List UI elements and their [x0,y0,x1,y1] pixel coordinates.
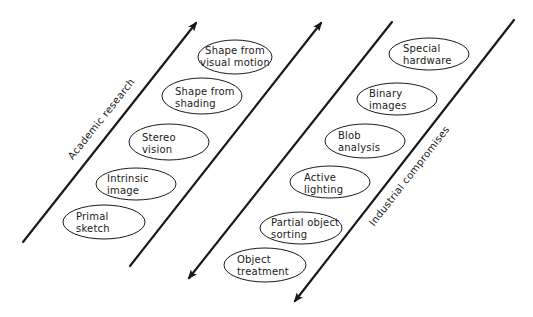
node-stereo-vision: Stereo vision [129,124,209,160]
svg-text:lighting: lighting [304,184,343,195]
svg-text:Shape from: Shape from [205,45,265,56]
svg-text:sorting: sorting [271,229,307,240]
svg-text:Partial object: Partial object [271,217,339,228]
svg-text:Intrinsic: Intrinsic [107,173,149,184]
node-intrinsic-image: Intrinsic image [96,168,176,200]
diagram-svg: Academic research Industrial compromises… [0,0,533,317]
node-shape-from-visual-motion: Shape from visual motion [198,40,272,74]
svg-text:Active: Active [304,172,336,183]
svg-text:shading: shading [175,98,216,109]
node-partial-object-sorting: Partial object sorting [260,212,342,244]
svg-text:vision: vision [142,144,172,155]
node-shape-from-shading: Shape from shading [162,78,242,114]
svg-text:analysis: analysis [338,142,380,153]
svg-text:treatment: treatment [237,266,289,277]
academic-research-label: Academic research [66,76,137,161]
svg-text:Shape from: Shape from [175,86,235,97]
svg-text:Special: Special [403,43,440,54]
svg-text:hardware: hardware [403,55,452,66]
node-active-lighting: Active lighting [290,166,370,198]
svg-text:visual motion: visual motion [200,57,270,68]
svg-text:sketch: sketch [76,223,110,234]
node-binary-images: Binary images [357,83,437,115]
node-primal-sketch: Primal sketch [63,205,145,239]
diagram-canvas: Academic research Industrial compromises… [0,0,533,317]
svg-text:Stereo: Stereo [142,132,176,143]
node-object-treatment: Object treatment [224,248,306,282]
svg-text:image: image [107,185,139,196]
svg-text:Blob: Blob [338,130,361,141]
svg-text:Object: Object [237,254,271,265]
svg-text:Binary: Binary [369,88,402,99]
node-special-hardware: Special hardware [389,38,469,70]
svg-text:Primal: Primal [76,211,109,222]
node-blob-analysis: Blob analysis [325,124,405,158]
svg-text:images: images [369,100,407,111]
